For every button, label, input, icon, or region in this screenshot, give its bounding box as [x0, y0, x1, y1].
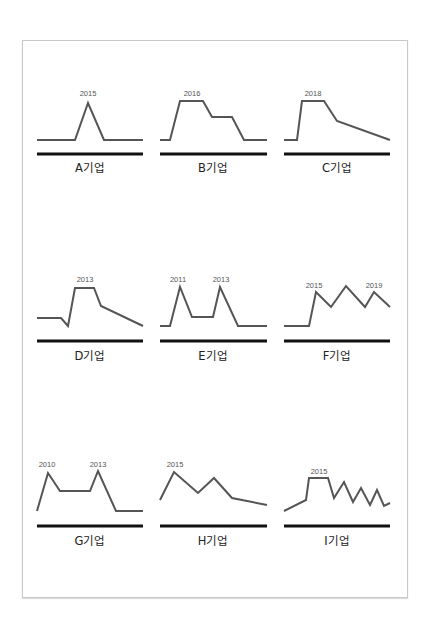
chart-panel: 20112013E기업: [160, 275, 267, 363]
year-annotation: 2010: [39, 460, 56, 469]
series-line: [37, 103, 143, 140]
year-annotation: 2019: [366, 281, 383, 290]
company-label: B기업: [198, 161, 228, 175]
chart-panel: 2015A기업: [37, 89, 143, 175]
series-line: [284, 478, 390, 511]
chart-panel: 2015H기업: [160, 460, 267, 548]
company-label: D기업: [75, 349, 106, 363]
year-annotation: 2013: [213, 275, 230, 284]
chart-panel: 2013D기업: [37, 275, 143, 363]
year-annotation: 2015: [311, 467, 328, 476]
company-label: I기업: [324, 534, 349, 548]
year-annotation: 2018: [305, 89, 322, 98]
year-annotation: 2015: [306, 281, 323, 290]
year-annotation: 2013: [90, 460, 107, 469]
series-line: [160, 101, 267, 140]
company-label: H기업: [198, 534, 229, 548]
company-label: A기업: [75, 161, 105, 175]
company-label: G기업: [75, 534, 106, 548]
chart-panel: 2015I기업: [284, 467, 390, 548]
series-line: [284, 101, 390, 140]
chart-panel: 2016B기업: [160, 89, 267, 175]
year-annotation: 2015: [167, 460, 184, 469]
year-annotation: 2011: [170, 275, 186, 284]
company-label: C기업: [322, 161, 352, 175]
chart-panel: 20152019F기업: [284, 281, 390, 363]
year-annotation: 2013: [77, 275, 94, 284]
series-line: [37, 471, 143, 511]
year-annotation: 2015: [80, 89, 97, 98]
chart-panel: 2018C기업: [284, 89, 390, 175]
company-label: E기업: [198, 349, 227, 363]
series-line: [160, 472, 267, 505]
series-line: [37, 288, 143, 326]
company-label: F기업: [323, 349, 352, 363]
chart-panel: 20102013G기업: [37, 460, 143, 548]
year-annotation: 2016: [184, 89, 201, 98]
series-line: [160, 287, 267, 326]
small-multiples-chart: 2015A기업2016B기업2018C기업2013D기업20112013E기업2…: [0, 0, 428, 630]
series-line: [284, 286, 390, 326]
